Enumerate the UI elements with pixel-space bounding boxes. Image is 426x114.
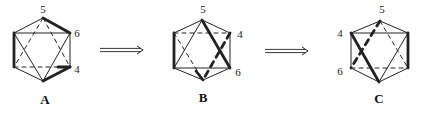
arrow-b-to-c-icon xyxy=(265,47,308,55)
bold-bond-line xyxy=(202,20,230,68)
vertex-number-label: 5 xyxy=(200,3,206,15)
bond-line xyxy=(351,21,380,33)
hidden-bond-line xyxy=(380,21,408,68)
figures-group: 564A546B546C xyxy=(14,3,408,107)
bond-line xyxy=(174,20,202,68)
arrows-group xyxy=(100,46,308,55)
vertex-number-label: 6 xyxy=(74,27,80,39)
structure-label-c: C xyxy=(374,91,383,106)
vertex-number-label: 6 xyxy=(337,65,343,77)
vertex-number-label: 5 xyxy=(40,3,46,15)
vertex-number-label: 4 xyxy=(237,28,243,40)
bond-line xyxy=(380,21,408,33)
vertex-number-label: 6 xyxy=(235,66,241,78)
scheme-canvas: 564A546B546C xyxy=(0,0,426,114)
arrow-a-to-b-icon xyxy=(100,46,143,54)
hidden-bold-bond-line xyxy=(203,33,230,80)
structure-a: 564A xyxy=(14,3,80,107)
reaction-scheme-diagram: 564A546B546C xyxy=(0,0,426,114)
structure-b: 546B xyxy=(174,3,243,105)
vertex-number-label: 4 xyxy=(74,63,80,75)
structure-label-b: B xyxy=(199,90,208,105)
structure-c: 546C xyxy=(337,3,408,106)
vertex-number-label: 4 xyxy=(337,27,343,39)
vertex-number-label: 5 xyxy=(379,3,385,15)
structure-label-a: A xyxy=(40,92,50,107)
